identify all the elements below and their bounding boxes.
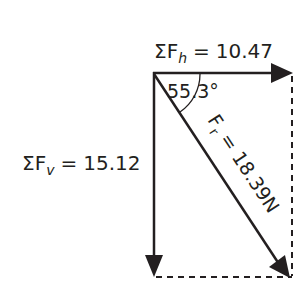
vertical-arrowhead (145, 255, 163, 277)
resultant-arrowhead (269, 255, 290, 278)
vertical-sum-label: ΣFv=15.12 (22, 151, 140, 178)
angle-label: 55.3° (167, 80, 219, 102)
horizontal-sum-label: ΣFh=10.47 (154, 39, 273, 66)
force-diagram: ΣFh=10.47 ΣFv=15.12 55.3° Fr=18.39N (0, 0, 306, 295)
horizontal-arrowhead (271, 63, 293, 83)
